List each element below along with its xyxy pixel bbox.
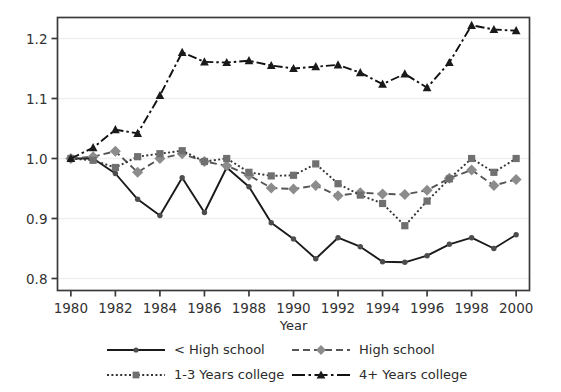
data-point [246,184,251,189]
data-point [179,147,186,154]
data-point [377,188,388,199]
data-point [268,172,275,179]
data-point [334,180,341,187]
x-tick-label: 1984 [143,300,177,316]
data-point [157,213,162,218]
y-tick-label: 0.8 [26,271,47,287]
legend-label: High school [359,342,435,357]
data-point [202,210,207,215]
legend-label: 1-3 Years college [174,367,284,382]
legend-swatch-dashed-diamond [290,342,352,358]
data-point [380,259,385,264]
data-point [89,143,98,151]
legend-label: < High school [174,342,265,357]
series-3 [66,21,520,162]
data-point [269,220,274,225]
data-point [513,232,518,237]
data-series-layer [65,21,521,265]
x-tick-label: 1998 [454,300,488,316]
data-point [178,48,187,56]
legend-item-high-school[interactable]: High school [290,342,475,358]
legend-swatch-dotted-square [105,367,167,383]
y-tick-label: 1.0 [26,151,47,167]
x-tick-label: 1986 [187,300,221,316]
data-point [490,169,497,176]
x-tick-label: 1990 [276,300,310,316]
x-axis-ticks: 1980198219841986198819901992199419961998… [54,291,534,316]
data-point [423,83,432,91]
legend-item-less-than-high-school[interactable]: < High school [105,342,290,358]
data-point [357,192,364,199]
data-point [401,222,408,229]
data-point [447,242,452,247]
data-point [113,171,118,176]
x-tick-label: 1996 [410,300,444,316]
data-point [400,69,409,77]
data-point [335,235,340,240]
chart-legend: < High school High school 1-3 Years coll… [105,337,475,387]
legend-swatch-dashdot-triangle [290,367,352,383]
data-point [356,68,365,76]
legend-item-1-3-years-college[interactable]: 1-3 Years college [105,367,290,383]
data-point [467,21,476,29]
data-point [491,246,496,251]
x-tick-label: 1994 [365,300,399,316]
data-point [245,169,252,176]
data-point [399,189,410,200]
y-tick-label: 1.2 [26,31,47,47]
y-tick-label: 1.1 [26,91,47,107]
data-point [135,197,140,202]
data-point [334,60,343,68]
data-point [402,260,407,265]
data-point [223,155,230,162]
x-tick-label: 1980 [54,300,88,316]
data-point [312,160,319,167]
series-line [71,25,516,158]
x-axis-title: Year [279,318,308,333]
y-tick-label: 0.9 [26,211,47,227]
plot-frame [58,18,530,291]
data-point [511,174,522,185]
data-point [422,185,433,196]
data-point [290,172,297,179]
y-axis-ticks: 0.80.91.01.11.2 [26,31,57,287]
x-tick-label: 1988 [232,300,266,316]
axes-rect [58,18,530,291]
legend-label: 4+ Years college [359,367,467,382]
data-point [424,253,429,258]
x-tick-label: 1992 [321,300,355,316]
data-point [266,182,277,193]
data-point [111,125,120,133]
data-point [201,158,208,165]
data-point [446,175,453,182]
data-point [513,155,520,162]
x-tick-label: 2000 [499,300,533,316]
data-point [112,164,119,171]
legend-item-4-plus-years-college[interactable]: 4+ Years college [290,367,475,383]
data-point [179,175,184,180]
data-point [358,244,363,249]
legend-swatch-solid-circle [105,342,167,358]
data-point [313,256,318,261]
data-point [90,157,97,164]
data-point [156,91,165,99]
line-chart: 0.80.91.01.11.2 198019821984198619881990… [0,0,561,392]
data-point [488,180,499,191]
data-point [134,153,141,160]
x-tick-label: 1982 [98,300,132,316]
data-point [333,190,344,201]
data-point [469,235,474,240]
data-point [310,180,321,191]
chart-figure: 0.80.91.01.11.2 198019821984198619881990… [0,0,561,392]
data-point [291,236,296,241]
data-point [423,198,430,205]
data-point [468,155,475,162]
data-point [445,58,454,66]
data-point [288,184,299,195]
data-point [156,150,163,157]
data-point [379,200,386,207]
